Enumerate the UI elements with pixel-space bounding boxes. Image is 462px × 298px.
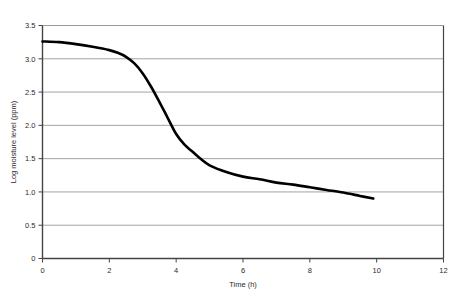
y-tick-label-3.5: 3.5: [25, 21, 35, 30]
line-chart: 024681012 00.51.01.52.02.53.03.5 Time (h…: [0, 0, 462, 298]
y-tick-label-1.0: 1.0: [25, 188, 35, 197]
y-tick-label-2.0: 2.0: [25, 121, 35, 130]
y-tick-label-2.5: 2.5: [25, 88, 35, 97]
x-tick-label-6: 6: [241, 266, 245, 275]
x-tick-label-2: 2: [107, 266, 111, 275]
x-axis-title: Time (h): [229, 280, 257, 289]
y-axis-title: Log moisture level (ppm): [9, 100, 18, 183]
x-tick-label-8: 8: [308, 266, 312, 275]
y-tick-label-3.0: 3.0: [25, 55, 35, 64]
y-tick-label-0: 0: [31, 254, 35, 263]
x-tick-label-0: 0: [40, 266, 44, 275]
series-line-0: [43, 41, 374, 198]
gridlines-group: [43, 26, 444, 226]
chart-container: 024681012 00.51.01.52.02.53.03.5 Time (h…: [0, 0, 462, 298]
tick-marks-group: [39, 26, 444, 263]
x-tick-label-4: 4: [174, 266, 178, 275]
x-tick-label-10: 10: [372, 266, 380, 275]
y-tick-label-0.5: 0.5: [25, 221, 35, 230]
y-tick-labels: 00.51.01.52.02.53.03.5: [25, 21, 35, 263]
x-tick-labels: 024681012: [40, 266, 447, 275]
x-tick-label-12: 12: [439, 266, 447, 275]
y-tick-label-1.5: 1.5: [25, 154, 35, 163]
axes-group: [43, 26, 444, 259]
data-series-group: [43, 41, 374, 198]
